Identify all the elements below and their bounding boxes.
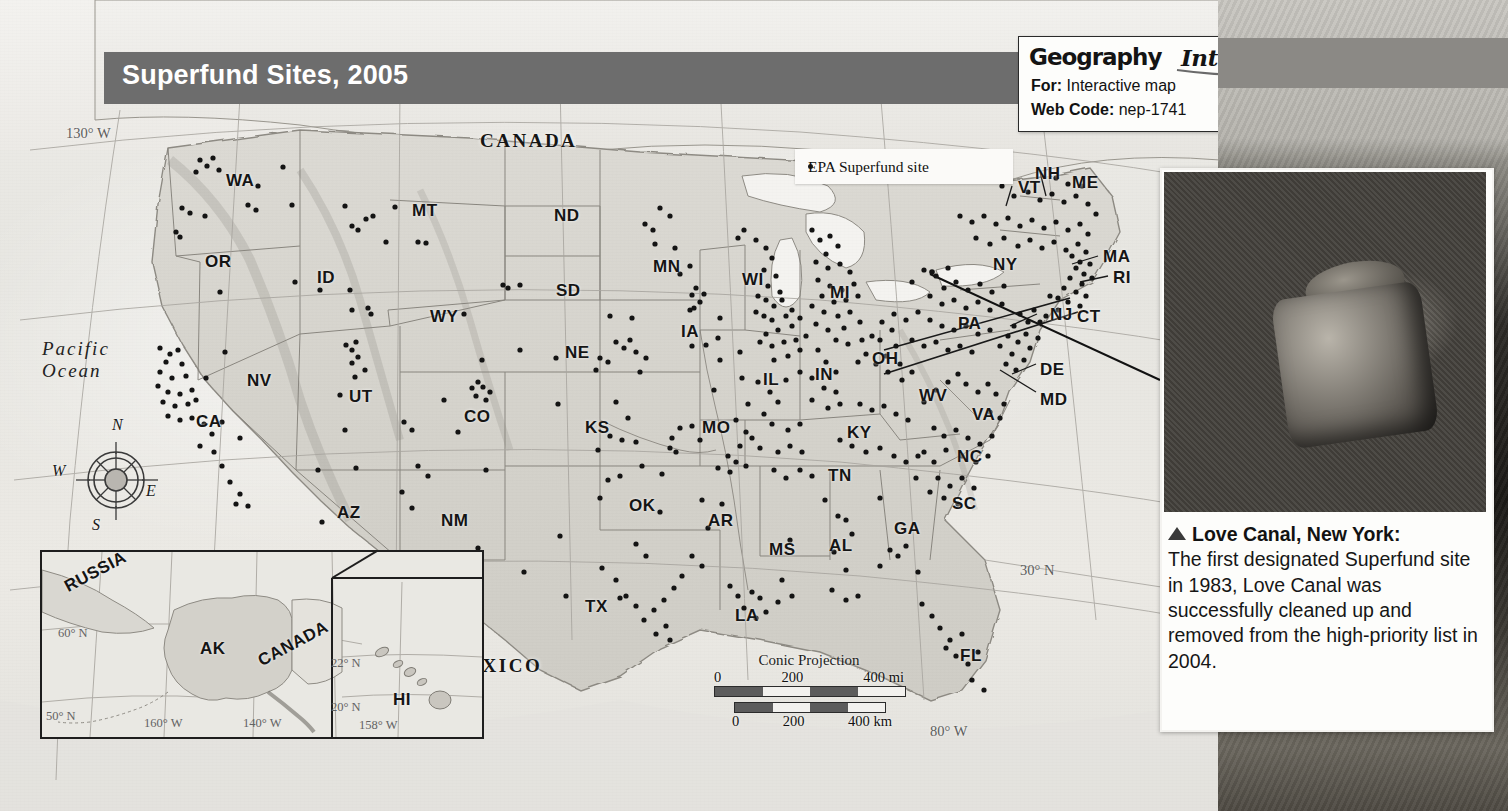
state-label-ut: UT — [349, 387, 373, 407]
for-label: For: — [1031, 77, 1062, 94]
state-label-mi: MI — [830, 283, 850, 303]
state-label-pa: PA — [958, 314, 981, 334]
pacific-ocean-label: Pacific Ocean — [42, 338, 110, 382]
state-label-nv: NV — [247, 371, 272, 391]
state-label-me: ME — [1072, 173, 1099, 193]
country-label-canada: CANADA — [480, 130, 577, 152]
inset-label-ak: AK — [200, 639, 226, 659]
state-label-mo: MO — [702, 418, 730, 438]
web-code-row: Web Code: nep-1741 — [1031, 101, 1186, 119]
state-label-nh: NH — [1035, 164, 1061, 184]
inset-graticule-1: 50° N — [46, 709, 76, 724]
state-label-fl: FL — [960, 646, 982, 666]
web-code-label: Web Code: — [1031, 101, 1114, 118]
inset-graticule-2: 160° W — [144, 716, 182, 731]
love-canal-caption: Love Canal, New York: The first designat… — [1168, 522, 1480, 674]
logo-word-geography: Geography — [1029, 44, 1161, 70]
miles-tick-2: 400 mi — [863, 669, 904, 686]
alaska-hawaii-inset: RUSSIAAKCANADAHI60° N50° N160° W140° W22… — [40, 550, 484, 739]
page-title: Superfund Sites, 2005 — [122, 60, 408, 91]
graticule-label-2: 80° W — [930, 723, 967, 740]
compass-rose: N E S W — [60, 424, 172, 536]
caption-title-row: Love Canal, New York: — [1168, 522, 1480, 546]
state-label-wi: WI — [742, 270, 764, 290]
inset-graticule-4: 22° N — [331, 656, 361, 671]
state-label-ok: OK — [629, 496, 656, 516]
inset-graticule-6: 158° W — [359, 718, 397, 733]
state-label-de: DE — [1040, 360, 1065, 380]
state-label-wv: WV — [919, 386, 947, 406]
state-label-ia: IA — [681, 322, 699, 342]
state-label-ar: AR — [708, 511, 734, 531]
km-tick-1: 200 — [783, 713, 805, 730]
state-label-ga: GA — [894, 519, 921, 539]
state-label-az: AZ — [337, 503, 361, 523]
map-legend: EPA Superfund site — [795, 149, 1013, 184]
state-label-ri: RI — [1113, 268, 1131, 288]
graticule-label-0: 130° W — [66, 125, 111, 142]
state-label-md: MD — [1040, 390, 1067, 410]
map-page: Superfund Sites, 2005 EPA Superfund site… — [0, 0, 1508, 811]
state-label-co: CO — [464, 407, 491, 427]
state-label-tn: TN — [828, 466, 852, 486]
web-code-value: nep-1741 — [1119, 101, 1187, 118]
caption-body: The first designated Superfund site in 1… — [1168, 547, 1480, 674]
miles-tick-1: 200 — [781, 669, 803, 686]
inset-graticule-5: 20° N — [331, 700, 361, 715]
km-bar — [734, 702, 886, 713]
graticule-label-1: 30° N — [1020, 562, 1054, 579]
scale-km-ticks: 0 200 400 km — [732, 713, 892, 730]
rusted-drum — [1270, 280, 1439, 449]
state-label-mt: MT — [412, 201, 438, 221]
state-label-la: LA — [735, 606, 759, 626]
compass-north-label: N — [112, 416, 123, 434]
state-label-tx: TX — [585, 597, 608, 617]
ocean-line-2: Ocean — [42, 360, 110, 382]
state-label-va: VA — [972, 405, 995, 425]
state-label-il: IL — [763, 370, 779, 390]
for-row: For: Interactive map — [1031, 77, 1176, 95]
state-label-ks: KS — [585, 418, 610, 438]
state-label-wy: WY — [430, 307, 458, 327]
state-label-in: IN — [815, 365, 833, 385]
projection-label: Conic Projection — [714, 652, 904, 669]
inset-geography — [42, 552, 482, 737]
inset-label-hi: HI — [393, 690, 411, 710]
state-label-wa: WA — [226, 171, 254, 191]
compass-west-label: W — [52, 462, 65, 480]
state-label-nd: ND — [554, 206, 580, 226]
state-label-nj: NJ — [1050, 305, 1073, 325]
state-label-nm: NM — [441, 511, 468, 531]
state-label-ct: CT — [1077, 307, 1101, 327]
compass-rose-icon — [60, 424, 172, 536]
inset-graticule-3: 140° W — [243, 716, 281, 731]
state-label-nc: NC — [957, 447, 983, 467]
ocean-line-1: Pacific — [42, 338, 110, 360]
state-label-ky: KY — [847, 423, 872, 443]
state-label-mn: MN — [653, 257, 680, 277]
miles-tick-0: 0 — [714, 669, 721, 686]
background-banner-strip — [1218, 38, 1508, 88]
state-label-ma: MA — [1103, 247, 1130, 267]
inset-graticule-0: 60° N — [58, 626, 88, 641]
state-label-ms: MS — [769, 540, 796, 560]
state-label-sc: SC — [952, 494, 977, 514]
legend-label: EPA Superfund site — [808, 158, 929, 176]
state-label-or: OR — [205, 252, 232, 272]
state-label-ny: NY — [993, 255, 1018, 275]
triangle-up-icon — [1168, 527, 1186, 540]
compass-east-label: E — [146, 482, 156, 500]
state-label-sd: SD — [556, 281, 581, 301]
state-label-al: AL — [829, 536, 853, 556]
scale-bar: Conic Projection 0 200 400 mi 0 200 400 … — [714, 652, 904, 730]
state-label-ca: CA — [196, 412, 222, 432]
compass-south-label: S — [92, 516, 100, 534]
state-label-ne: NE — [565, 343, 590, 363]
km-tick-0: 0 — [732, 713, 739, 730]
state-label-id: ID — [317, 268, 335, 288]
miles-bar — [714, 686, 906, 697]
km-tick-2: 400 km — [848, 713, 892, 730]
caption-title: Love Canal, New York: — [1192, 523, 1400, 545]
for-value: Interactive map — [1067, 77, 1176, 94]
scale-miles-ticks: 0 200 400 mi — [714, 669, 904, 686]
